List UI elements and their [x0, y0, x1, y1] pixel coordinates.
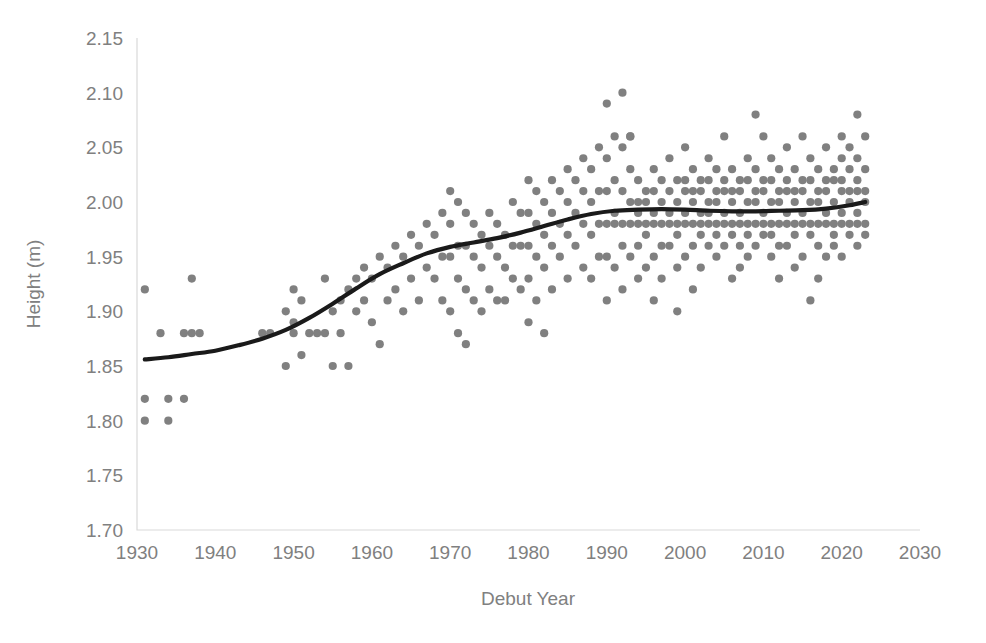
scatter-point: [517, 209, 525, 217]
scatter-point: [564, 165, 572, 173]
scatter-point: [838, 132, 846, 140]
scatter-point: [736, 242, 744, 250]
scatter-point: [517, 285, 525, 293]
scatter-point: [673, 198, 681, 206]
scatter-point: [775, 274, 783, 282]
scatter-point: [587, 274, 595, 282]
scatter-point: [579, 264, 587, 272]
scatter-point: [642, 220, 650, 228]
scatter-point: [587, 165, 595, 173]
scatter-point: [697, 187, 705, 195]
x-tick-label: 1950: [272, 542, 314, 563]
scatter-point: [509, 274, 517, 282]
scatter-point: [391, 285, 399, 293]
scatter-point: [853, 209, 861, 217]
scatter-point: [697, 220, 705, 228]
scatter-point: [775, 165, 783, 173]
scatter-point: [728, 187, 736, 195]
scatter-point: [376, 340, 384, 348]
scatter-point: [360, 296, 368, 304]
scatter-point: [634, 198, 642, 206]
x-tick-label: 1970: [429, 542, 471, 563]
scatter-point: [524, 176, 532, 184]
scatter-point: [360, 264, 368, 272]
y-tick-label: 2.05: [86, 137, 123, 158]
scatter-point: [665, 220, 673, 228]
scatter-point: [540, 231, 548, 239]
scatter-point: [830, 220, 838, 228]
scatter-point: [673, 231, 681, 239]
scatter-point: [141, 417, 149, 425]
scatter-point: [438, 253, 446, 261]
scatter-point: [540, 264, 548, 272]
scatter-point: [704, 154, 712, 162]
scatter-point: [282, 307, 290, 315]
scatter-point: [712, 220, 720, 228]
scatter-point: [853, 242, 861, 250]
scatter-point: [603, 187, 611, 195]
scatter-point: [626, 165, 634, 173]
scatter-point: [838, 209, 846, 217]
scatter-point: [791, 264, 799, 272]
scatter-point: [798, 176, 806, 184]
scatter-point: [603, 296, 611, 304]
scatter-point: [579, 187, 587, 195]
scatter-point: [830, 165, 838, 173]
scatter-point: [681, 143, 689, 151]
scatter-point: [759, 176, 767, 184]
scatter-point: [391, 242, 399, 250]
scatter-point: [853, 176, 861, 184]
x-tick-label: 1930: [116, 542, 158, 563]
scatter-point: [783, 187, 791, 195]
scatter-point: [791, 231, 799, 239]
scatter-point: [775, 198, 783, 206]
scatter-point: [501, 264, 509, 272]
scatter-point: [282, 362, 290, 370]
scatter-point: [791, 187, 799, 195]
scatter-point: [767, 253, 775, 261]
scatter-point: [720, 132, 728, 140]
scatter-point: [595, 253, 603, 261]
scatter-point: [806, 220, 814, 228]
scatter-point: [329, 362, 337, 370]
scatter-point: [650, 253, 658, 261]
x-axis-tick-labels: 1930194019501960197019801990200020102020…: [116, 542, 941, 563]
scatter-point: [462, 285, 470, 293]
scatter-point: [720, 176, 728, 184]
scatter-point: [689, 198, 697, 206]
scatter-point: [681, 220, 689, 228]
scatter-point: [344, 362, 352, 370]
scatter-point: [814, 220, 822, 228]
scatter-point: [618, 242, 626, 250]
scatter-point: [634, 242, 642, 250]
scatter-point: [759, 231, 767, 239]
scatter-point: [493, 296, 501, 304]
scatter-point: [611, 176, 619, 184]
scatter-point: [838, 176, 846, 184]
scatter-point: [861, 132, 869, 140]
scatter-point: [650, 187, 658, 195]
scatter-point: [180, 329, 188, 337]
scatter-point: [297, 351, 305, 359]
scatter-point: [290, 329, 298, 337]
chart-container: 1.701.751.801.851.901.952.002.052.102.15…: [0, 0, 986, 643]
scatter-point: [681, 253, 689, 261]
scatter-point: [650, 165, 658, 173]
scatter-point: [814, 165, 822, 173]
scatter-point: [798, 132, 806, 140]
scatter-point: [399, 307, 407, 315]
scatter-point: [838, 220, 846, 228]
scatter-point: [532, 187, 540, 195]
scatter-point: [430, 231, 438, 239]
scatter-point: [728, 274, 736, 282]
scatter-point: [744, 253, 752, 261]
scatter-point: [571, 242, 579, 250]
scatter-point: [814, 274, 822, 282]
scatter-point: [618, 187, 626, 195]
scatter-point: [720, 187, 728, 195]
scatter-point: [493, 253, 501, 261]
scatter-point: [822, 143, 830, 151]
scatter-point: [791, 165, 799, 173]
scatter-point: [470, 220, 478, 228]
scatter-point: [313, 329, 321, 337]
